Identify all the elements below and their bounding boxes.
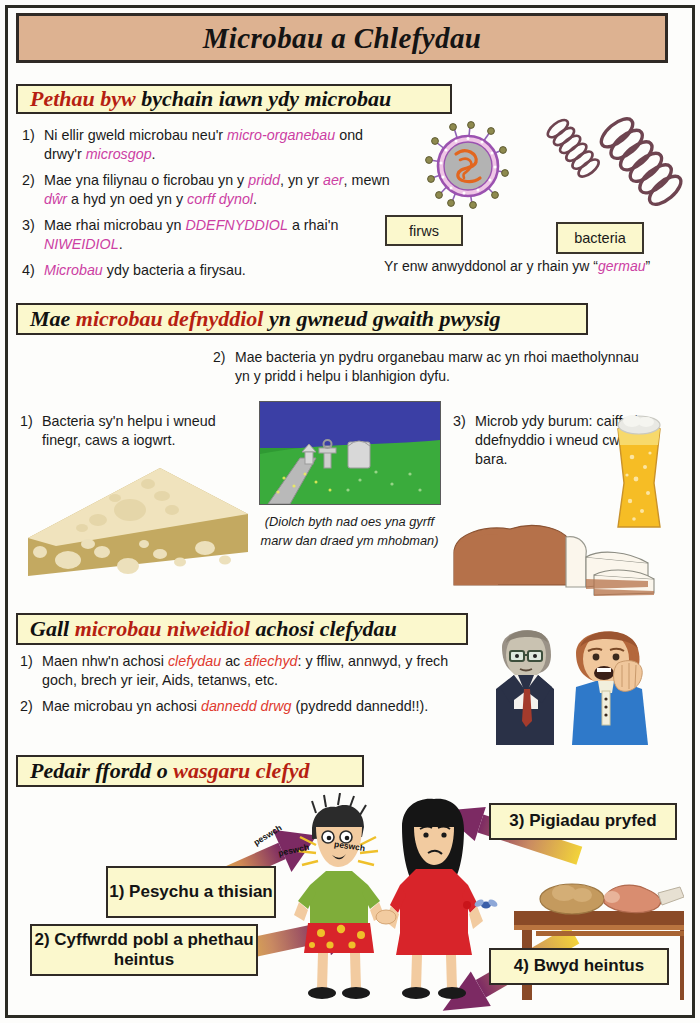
item-text: Mae yna filiynau o ficrobau yn y pridd, … xyxy=(44,171,394,209)
section-header-2-text: Mae microbau defnyddiol yn gwneud gwaith… xyxy=(30,306,501,332)
section-2-post: yn gwneud gwaith pwysig xyxy=(263,306,500,331)
spread-box-1[interactable]: 1) Pesychu a thisian xyxy=(106,866,276,918)
item-number: 1) xyxy=(20,412,42,450)
sick-people-illustration xyxy=(480,613,684,754)
item-text: Microbau ydy bacteria a firysau. xyxy=(44,261,394,280)
boy-with-toothache xyxy=(572,631,648,745)
section-header-3: Gall microbau niweidiol achosi clefydau xyxy=(16,613,468,645)
spread-box-3-label: 3) Pigiadau pryfed xyxy=(509,811,656,831)
beer-glass-icon xyxy=(608,409,670,531)
section-1-highlight: Pethau byw xyxy=(30,86,136,111)
item-number: 3) xyxy=(22,216,44,254)
spread-box-2-label: 2) Cyffwrdd pobl a phethau heintus xyxy=(32,930,256,971)
item-number: 3) xyxy=(453,412,475,469)
germau-note: Yr enw anwyddonol ar y rhain yw “germau” xyxy=(384,258,650,274)
spread-box-2[interactable]: 2) Cyffwrdd pobl a phethau heintus xyxy=(30,924,258,976)
list-item: 1)Ni ellir gweld microbau neu'r micro-or… xyxy=(22,126,394,164)
germau-word: germau xyxy=(598,258,645,274)
cheese-wedge-icon xyxy=(20,448,255,596)
graveyard-caption: (Diolch byth nad oes yna gyrff marw dan … xyxy=(252,513,447,550)
item-text: Mae bacteria yn pydru organebau marw ac … xyxy=(235,348,643,385)
spread-box-4-label: 4) Bwyd heintus xyxy=(514,956,644,976)
item-number: 2) xyxy=(20,697,42,716)
list-item: 4)Microbau ydy bacteria a firysau. xyxy=(22,261,394,280)
section-4-highlight: wasgaru clefyd xyxy=(173,758,309,783)
section-header-3-text: Gall microbau niweidiol achosi clefydau xyxy=(30,616,397,642)
section-header-2: Mae microbau defnyddiol yn gwneud gwaith… xyxy=(16,303,588,335)
section-3-pre: Gall xyxy=(30,616,75,641)
spread-box-1-label: 1) Pesychu a thisian xyxy=(109,882,272,902)
label-firws-text: firws xyxy=(409,223,439,239)
section-2-highlight: microbau defnyddiol xyxy=(76,306,264,331)
page-title: Microbau a Chlefydau xyxy=(16,13,668,63)
caption-line-2: marw dan draed ym mhobman) xyxy=(252,532,447,551)
spread-box-3[interactable]: 3) Pigiadau pryfed xyxy=(489,803,677,840)
item-text: Mae rhai microbau yn DDEFNYDDIOL a rhai'… xyxy=(44,216,394,254)
item-number: 2) xyxy=(213,348,235,385)
section-header-1-text: Pethau byw bychain iawn ydy microbau xyxy=(30,86,391,112)
spiral-bacteria-icon xyxy=(520,105,696,223)
bread-loaf-icon xyxy=(448,523,658,601)
list-item: 1)Maen nhw'n achosi clefydau ac afiechyd… xyxy=(20,652,472,690)
graveyard-image xyxy=(259,401,441,505)
item-text: Ni ellir gweld microbau neu'r micro-orga… xyxy=(44,126,394,164)
list-item: 2)Mae microbau yn achosi dannedd drwg (p… xyxy=(20,697,472,716)
list-item: 2)Mae yna filiynau o ficrobau yn y pridd… xyxy=(22,171,394,209)
section-3-post: achosi clefydau xyxy=(250,616,397,641)
section-3-list: 1)Maen nhw'n achosi clefydau ac afiechyd… xyxy=(20,652,472,723)
section-header-1: Pethau byw bychain iawn ydy microbau xyxy=(16,84,452,114)
list-item: 3)Mae rhai microbau yn DDEFNYDDIOL a rha… xyxy=(22,216,394,254)
section-1-rest: bychain iawn ydy microbau xyxy=(136,86,391,111)
label-firws: firws xyxy=(385,215,463,246)
item-number: 4) xyxy=(22,261,44,280)
man-with-glasses xyxy=(496,630,554,745)
item-text: Maen nhw'n achosi clefydau ac afiechyd: … xyxy=(42,652,472,690)
item-number: 1) xyxy=(20,652,42,690)
item-number: 1) xyxy=(22,126,44,164)
page-title-text: Microbau a Chlefydau xyxy=(203,22,482,55)
virus-icon xyxy=(420,120,512,212)
section-header-4: Pedair ffordd o wasgaru clefyd xyxy=(16,755,364,787)
item-text: Mae microbau yn achosi dannedd drwg (pyd… xyxy=(42,697,472,716)
disease-spread-diagram: peswch peswch peswch 1) Pesychu a thisia… xyxy=(16,793,684,1011)
item-number: 2) xyxy=(22,171,44,209)
item-text: Bacteria sy'n helpu i wneud finegr, caws… xyxy=(42,412,235,450)
section-2-pre: Mae xyxy=(30,306,76,331)
label-bacteria-text: bacteria xyxy=(574,230,626,246)
label-bacteria: bacteria xyxy=(556,222,644,254)
coughing-man xyxy=(294,793,384,999)
section-2-item-top: 2)Mae bacteria yn pydru organebau marw a… xyxy=(213,348,643,392)
section-header-4-text: Pedair ffordd o wasgaru clefyd xyxy=(30,758,309,784)
spread-box-4[interactable]: 4) Bwyd heintus xyxy=(489,948,669,985)
section-3-highlight: microbau niweidiol xyxy=(75,616,250,641)
caption-line-1: (Diolch byth nad oes yna gyrff xyxy=(252,513,447,532)
poster-page: Microbau a Chlefydau Pethau byw bychain … xyxy=(0,0,700,1023)
section-1-list: 1)Ni ellir gweld microbau neu'r micro-or… xyxy=(22,126,394,287)
section-4-pre: Pedair ffordd o xyxy=(30,758,173,783)
